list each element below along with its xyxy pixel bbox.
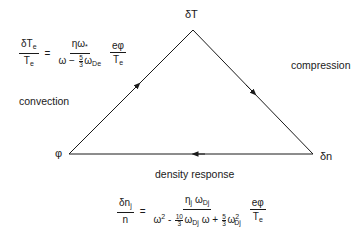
arrow-compression-icon — [246, 85, 254, 93]
dens-den-omega1-sup: 2 — [161, 213, 165, 220]
vertex-delta-t: δT — [185, 8, 198, 20]
temp-lhs-fraction: δTe Te — [19, 38, 39, 69]
temp-rhs-den-omega: ω — [84, 55, 92, 66]
temp-rhs-den-pre: ω − — [58, 55, 74, 66]
temp-lhs-den-sub: e — [30, 60, 34, 67]
label-convection: convection — [19, 95, 69, 107]
dens-den-plus: + — [212, 214, 218, 225]
dens-rhs-fraction: ηj ωDj ω2 - 103ωDj ω + 53ω2Dj — [152, 194, 243, 228]
dens-lhs-fraction: δnj n — [117, 197, 134, 225]
dens-num-omega: ω — [195, 194, 203, 205]
dens-coef1-fraction: 103 — [175, 214, 183, 227]
dens-coef2-fraction: 53 — [222, 214, 227, 227]
temp-rhs-num-sub: * — [85, 43, 88, 50]
vertex-phi: φ — [55, 147, 62, 159]
temp-factor-fraction: eφ Te — [110, 40, 126, 68]
dens-lhs-num-sub: j — [130, 202, 132, 209]
dens-factor-fraction: eφ Te — [250, 197, 266, 225]
dens-coef1-den: 3 — [177, 221, 181, 227]
dens-den-omega-var: ω — [202, 214, 210, 225]
temp-factor-den-sub: e — [119, 59, 123, 66]
temp-equals: = — [45, 48, 51, 59]
label-density-response: density response — [155, 168, 234, 180]
dens-factor-den-sub: e — [259, 216, 263, 223]
dens-den-minus: - — [168, 214, 171, 225]
dens-coef2-den: 3 — [222, 221, 226, 227]
temp-rhs-num: ηω — [72, 38, 85, 49]
temp-coef-den: 3 — [79, 62, 83, 68]
dens-den-omega3-sub: Dj — [234, 219, 241, 226]
dens-factor-num: eφ — [250, 197, 266, 210]
equation-temperature: δTe Te = ηω* ω − 53ωDe eφ Te — [17, 38, 128, 69]
temp-factor-num: eφ — [110, 40, 126, 53]
dens-equals: = — [140, 206, 146, 217]
temp-rhs-fraction: ηω* ω − 53ωDe — [56, 38, 103, 69]
dens-num-eta-sub: j — [191, 199, 193, 206]
dens-num-omega-sub: Dj — [203, 199, 210, 206]
temp-coef-fraction: 53 — [79, 55, 84, 68]
temp-lhs-num: δT — [21, 38, 33, 49]
label-compression: compression — [291, 59, 351, 71]
dens-lhs-den: n — [121, 213, 131, 225]
vertex-delta-n: δn — [320, 150, 332, 162]
dens-lhs-num: δn — [119, 197, 130, 208]
dens-den-omega2-sub: Dj — [192, 219, 199, 226]
temp-lhs-num-sub: e — [33, 43, 37, 50]
temp-rhs-den-sub: De — [92, 60, 101, 67]
arrow-convection-icon — [130, 85, 138, 93]
equation-density: δnj n = ηj ωDj ω2 - 103ωDj ω + 53ω2Dj eφ… — [115, 194, 268, 228]
